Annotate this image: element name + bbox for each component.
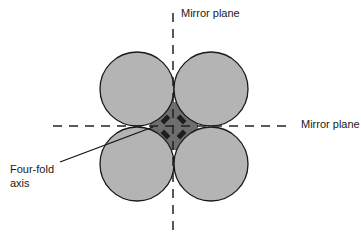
axis-label-line1: Four-fold — [10, 162, 54, 176]
sphere-bottom-left — [100, 127, 174, 201]
sphere-top-right — [174, 52, 248, 126]
vertical-mirror-plane-label: Mirror plane — [181, 6, 240, 20]
four-fold-axis-label: Four-fold axis — [10, 162, 54, 190]
axis-label-line2: axis — [10, 176, 54, 190]
sphere-top-left — [100, 52, 174, 126]
sphere-bottom-right — [174, 127, 248, 201]
horizontal-mirror-plane-label: Mirror plane — [301, 117, 360, 131]
